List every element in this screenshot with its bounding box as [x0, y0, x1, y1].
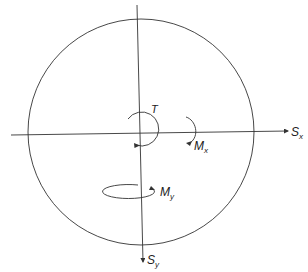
sx-axis: [11, 131, 288, 135]
my-arrow-icon: [103, 185, 155, 199]
my-label: My: [160, 185, 175, 201]
torque-label: T: [151, 103, 159, 115]
sx-label: Sx: [291, 125, 304, 141]
torque-arrow-icon: [128, 112, 159, 146]
sy-label: Sy: [147, 253, 160, 269]
mx-arrowhead-icon: [186, 141, 192, 146]
mx-label: Mx: [194, 139, 209, 155]
torque-arrowhead-icon: [134, 143, 140, 148]
my-arrowhead-icon: [149, 186, 155, 190]
shaft-section-diagram: Sx Sy T Mx My: [0, 0, 308, 272]
